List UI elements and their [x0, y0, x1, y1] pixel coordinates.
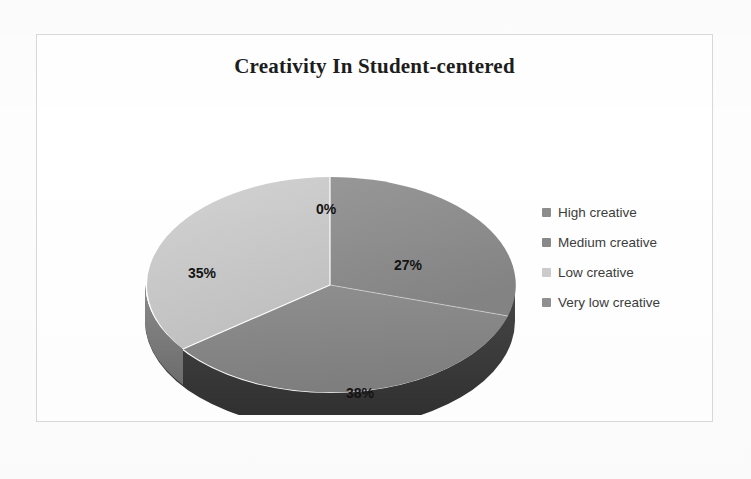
data-label-high-creative: 27%: [394, 257, 422, 273]
chart-title: Creativity In Student-centered: [37, 54, 712, 79]
legend-swatch-icon: [542, 208, 551, 217]
legend-item-very-low-creative[interactable]: Very low creative: [542, 287, 712, 317]
legend-label: Low creative: [558, 265, 634, 280]
legend-item-low-creative[interactable]: Low creative: [542, 257, 712, 287]
legend-item-medium-creative[interactable]: Medium creative: [542, 227, 712, 257]
data-label-low-creative: 35%: [188, 265, 216, 281]
pie-svg: [73, 115, 523, 415]
legend-swatch-icon: [542, 238, 551, 247]
screenshot-canvas: Creativity In Student-centered: [0, 0, 751, 479]
legend-item-high-creative[interactable]: High creative: [542, 197, 712, 227]
pie-chart-graphic: 0% 27% 35% 38%: [73, 115, 523, 415]
data-label-medium-creative: 38%: [346, 385, 374, 401]
legend-swatch-icon: [542, 268, 551, 277]
legend-label: Very low creative: [558, 295, 660, 310]
chart-frame: Creativity In Student-centered: [36, 34, 713, 422]
legend-label: Medium creative: [558, 235, 657, 250]
chart-legend: High creative Medium creative Low creati…: [542, 197, 712, 317]
data-label-very-low-creative: 0%: [316, 201, 336, 217]
legend-label: High creative: [558, 205, 637, 220]
legend-swatch-icon: [542, 298, 551, 307]
